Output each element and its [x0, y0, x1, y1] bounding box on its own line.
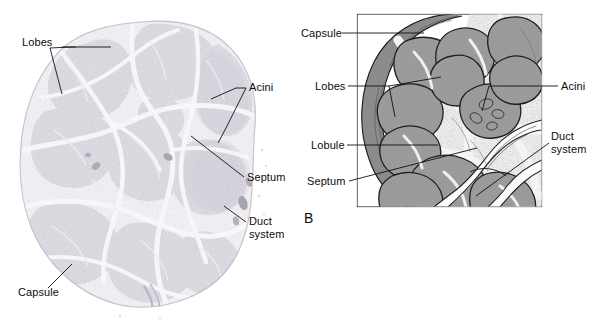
- label-lobule-b: Lobule: [311, 139, 345, 152]
- label-duct-system-a: Duct system: [249, 215, 284, 241]
- panel-letter-b: B: [304, 210, 313, 226]
- label-capsule-a: Capsule: [18, 286, 59, 299]
- label-acini-a: Acini: [249, 81, 273, 94]
- panel-b-drawing: Capsule Lobes Lobule Septum Acini Duct s…: [308, 0, 616, 333]
- label-septum-b: Septum: [307, 175, 346, 188]
- label-lobes-b: Lobes: [315, 80, 345, 93]
- panel-a-micrograph: Lobes Acini Septum Duct system Capsule: [0, 0, 308, 333]
- figure: Lobes Acini Septum Duct system Capsule: [0, 0, 616, 333]
- gland-section: [0, 0, 308, 333]
- micrograph-artwork: [0, 0, 308, 333]
- drawing-artwork: [308, 0, 616, 333]
- label-duct-system-b: Duct system: [551, 130, 586, 156]
- label-capsule-b: Capsule: [301, 27, 342, 40]
- label-septum-a: Septum: [247, 171, 286, 184]
- label-lobes-a: Lobes: [22, 36, 52, 49]
- label-acini-b: Acini: [561, 80, 585, 93]
- gland-drawing: [357, 14, 545, 232]
